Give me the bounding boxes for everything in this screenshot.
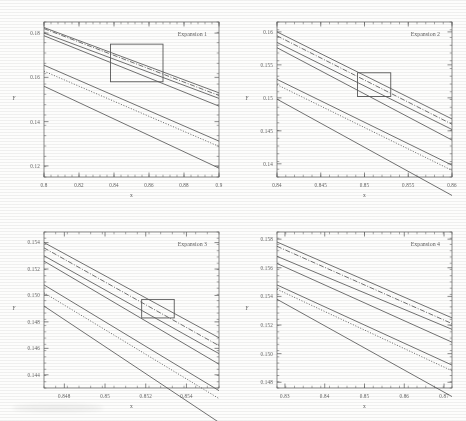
data-line	[44, 36, 219, 106]
plot-frame	[44, 22, 219, 177]
panel-expansion-2: 0.840.8450.850.8550.860.160.1550.150.145…	[233, 0, 466, 210]
x-tick-label: 0.86	[399, 393, 409, 399]
x-tick-label: 0.88	[179, 182, 189, 188]
x-axis-title: x	[130, 403, 133, 409]
x-tick-label: 0.84	[109, 182, 119, 188]
plot-4: 0.830.840.850.860.870.1580.1560.1540.152…	[233, 210, 466, 421]
y-tick-label: 0.14	[30, 119, 40, 125]
y-axis-title: F	[245, 305, 248, 311]
panel-title: Expansion 3	[178, 241, 207, 247]
y-tick-label: 0.18	[30, 30, 40, 36]
y-tick-label: 0.155	[261, 62, 274, 68]
data-line	[277, 256, 452, 329]
y-tick-label: 0.148	[261, 379, 274, 385]
panel-expansion-1: 0.80.820.840.860.880.90.180.160.140.12xF…	[0, 0, 233, 210]
y-tick-label: 0.12	[30, 163, 40, 169]
data-line	[277, 263, 452, 342]
data-line	[44, 285, 219, 391]
x-tick-label: 0.84	[272, 182, 282, 188]
y-tick-label: 0.150	[261, 351, 274, 357]
data-line	[44, 248, 219, 346]
x-tick-label: 0.855	[402, 182, 415, 188]
scan-smudge	[12, 404, 104, 412]
y-tick-label: 0.152	[261, 322, 274, 328]
x-tick-label: 0.85	[100, 393, 110, 399]
panel-title: Expansion 2	[411, 31, 440, 37]
y-axis-title: F	[12, 305, 15, 311]
data-line	[277, 246, 452, 323]
data-line	[277, 32, 452, 119]
plot-frame	[277, 232, 452, 388]
data-line	[277, 48, 452, 140]
panel-title: Expansion 1	[178, 31, 207, 37]
x-tick-label: 0.845	[315, 182, 328, 188]
x-tick-label: 0.852	[140, 393, 153, 399]
x-tick-label: 0.82	[74, 182, 84, 188]
x-tick-label: 0.84	[320, 393, 330, 399]
y-tick-label: 0.14	[263, 161, 273, 167]
panel-title: Expansion 4	[411, 241, 440, 247]
figure-canvas: 0.80.820.840.860.880.90.180.160.140.12xF…	[0, 0, 466, 421]
data-line	[277, 242, 452, 318]
y-axis-title: F	[12, 95, 15, 101]
plot-3: 0.8480.850.8520.8540.1540.1520.1500.1480…	[0, 210, 233, 421]
data-line	[277, 36, 452, 124]
x-tick-label: 0.86	[447, 182, 457, 188]
data-line	[277, 79, 452, 165]
y-tick-label: 0.150	[28, 292, 41, 298]
y-tick-label: 0.154	[261, 293, 274, 299]
data-line	[277, 285, 452, 365]
x-tick-label: 0.83	[280, 393, 290, 399]
data-line	[44, 29, 219, 96]
data-line	[277, 42, 452, 129]
inset-region-box	[111, 44, 164, 82]
y-tick-label: 0.144	[28, 372, 41, 378]
plot-2: 0.840.8450.850.8550.860.160.1550.150.145…	[233, 0, 466, 210]
x-tick-label: 0.8	[41, 182, 48, 188]
x-tick-label: 0.9	[216, 182, 223, 188]
data-line	[44, 28, 219, 93]
data-line	[277, 85, 452, 171]
y-tick-label: 0.148	[28, 319, 41, 325]
y-axis-title: F	[245, 95, 248, 101]
data-line	[44, 261, 219, 364]
y-tick-label: 0.156	[261, 265, 274, 271]
x-axis-title: x	[363, 403, 366, 409]
y-tick-label: 0.158	[261, 236, 274, 242]
x-tick-label: 0.85	[360, 393, 370, 399]
panel-expansion-3: 0.8480.850.8520.8540.1540.1520.1500.1480…	[0, 210, 233, 421]
y-tick-label: 0.145	[261, 128, 274, 134]
x-axis-title: x	[130, 192, 133, 198]
y-tick-label: 0.15	[263, 95, 273, 101]
data-line	[44, 293, 219, 399]
x-axis-title: x	[363, 192, 366, 198]
y-tick-label: 0.154	[28, 239, 41, 245]
data-line	[44, 65, 219, 141]
data-line	[44, 33, 219, 98]
inset-region-box	[142, 299, 175, 318]
y-tick-label: 0.16	[263, 29, 273, 35]
panel-expansion-4: 0.830.840.850.860.870.1580.1560.1540.152…	[233, 210, 466, 421]
x-tick-label: 0.848	[58, 393, 71, 399]
x-tick-label: 0.85	[360, 182, 370, 188]
y-tick-label: 0.146	[28, 345, 41, 351]
data-line	[44, 86, 219, 168]
data-line	[277, 299, 452, 396]
y-tick-label: 0.152	[28, 266, 41, 272]
data-line	[44, 71, 219, 146]
y-tick-label: 0.16	[30, 74, 40, 80]
x-tick-label: 0.86	[144, 182, 154, 188]
plot-1: 0.80.820.840.860.880.90.180.160.140.12xF…	[0, 0, 233, 210]
data-line	[44, 256, 219, 354]
